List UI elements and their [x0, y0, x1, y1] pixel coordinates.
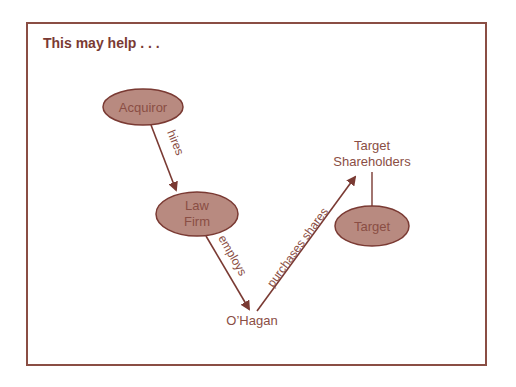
node-law-firm-line1: Law	[185, 198, 209, 213]
node-acquiror-label: Acquiror	[119, 100, 168, 115]
node-law-firm: Law Firm	[156, 192, 238, 236]
node-target: Target	[335, 206, 409, 246]
edge-label-employs: employs	[215, 233, 249, 279]
node-target-shareholders-line2: Shareholders	[333, 154, 411, 169]
node-law-firm-line2: Firm	[184, 214, 210, 229]
relationship-diagram: hires employs purchases shares Acquiror …	[0, 0, 516, 387]
node-target-label: Target	[354, 219, 391, 234]
node-ohagan: O’Hagan	[226, 313, 277, 328]
node-target-shareholders-line1: Target	[354, 138, 391, 153]
node-target-shareholders: Target Shareholders	[333, 138, 411, 169]
node-acquiror: Acquiror	[103, 89, 183, 125]
edge-label-purchases-shares: purchases shares	[264, 205, 331, 290]
edge-label-hires: hires	[164, 128, 187, 157]
node-ohagan-label: O’Hagan	[226, 313, 277, 328]
